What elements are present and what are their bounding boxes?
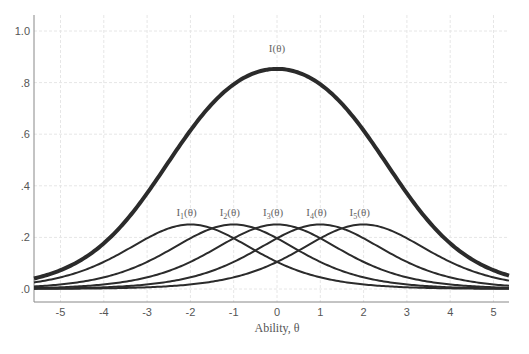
item-information-label-2: I2(θ) bbox=[220, 206, 241, 221]
y-tick-label: .6 bbox=[21, 128, 30, 140]
item-information-chart: .0.2.4.6.81.0 -5-4-3-2-1012345 I(θ)I1(θ)… bbox=[0, 0, 529, 354]
x-tick-label: 5 bbox=[490, 306, 496, 318]
x-tick-label: -4 bbox=[99, 306, 109, 318]
item-information-label-5: I5(θ) bbox=[350, 206, 371, 221]
y-tick-label: 1.0 bbox=[15, 25, 30, 37]
test-information-curve bbox=[34, 69, 509, 279]
test-information-label: I(θ) bbox=[269, 42, 286, 55]
x-axis-tick-labels: -5-4-3-2-1012345 bbox=[56, 306, 497, 318]
y-tick-label: .2 bbox=[21, 231, 30, 243]
y-tick-label: .0 bbox=[21, 283, 30, 295]
y-tick-label: .8 bbox=[21, 77, 30, 89]
x-tick-label: -3 bbox=[142, 306, 152, 318]
x-axis-title: Ability, θ bbox=[255, 321, 300, 335]
item-information-label-4: I4(θ) bbox=[306, 206, 327, 221]
item-information-label-1: I1(θ) bbox=[176, 206, 197, 221]
x-tick-label: 0 bbox=[274, 306, 280, 318]
x-tick-label: 2 bbox=[361, 306, 367, 318]
x-tick-label: -5 bbox=[56, 306, 66, 318]
y-axis-tick-labels: .0.2.4.6.81.0 bbox=[15, 25, 30, 295]
information-curves bbox=[34, 69, 509, 289]
x-tick-label: 4 bbox=[447, 306, 453, 318]
x-tick-label: -1 bbox=[229, 306, 239, 318]
item-information-label-3: I3(θ) bbox=[263, 206, 284, 221]
y-tick-label: .4 bbox=[21, 180, 30, 192]
x-tick-label: 3 bbox=[404, 306, 410, 318]
x-tick-label: 1 bbox=[317, 306, 323, 318]
x-tick-label: -2 bbox=[186, 306, 196, 318]
